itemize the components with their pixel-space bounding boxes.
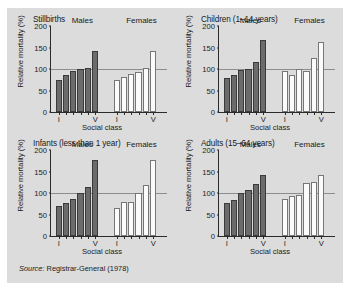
x-tick-mark — [234, 236, 235, 239]
y-axis-label: Relative mortality (%) — [184, 16, 193, 88]
x-axis-ticks: IVIV — [51, 236, 167, 245]
x-tick-mark — [146, 236, 147, 239]
bar — [70, 199, 76, 236]
bar-group-females — [282, 150, 326, 236]
chart-panel-adults: Adults (15–64 years) Relative mortality … — [175, 138, 343, 262]
x-tick-mark — [66, 112, 67, 115]
x-tick-mark — [249, 236, 250, 239]
bar — [121, 202, 127, 236]
bar — [77, 69, 83, 112]
y-tick-mark — [217, 150, 220, 151]
group-label-males: Males — [240, 16, 261, 25]
bar-group-males — [56, 26, 100, 112]
bar-group-males — [224, 150, 268, 236]
x-tick-mark — [299, 112, 300, 115]
bar — [114, 208, 120, 236]
bar — [135, 193, 141, 236]
bar-group-males — [56, 150, 100, 236]
x-tick-mark — [292, 236, 293, 239]
panel-grid: Stillbirths Relative mortality (%) 05010… — [7, 8, 343, 283]
bar — [282, 199, 288, 236]
x-tick-mark — [88, 112, 89, 115]
x-tick-mark — [299, 236, 300, 239]
bar — [114, 80, 120, 112]
group-label-females: Females — [126, 16, 157, 25]
bar — [77, 193, 83, 236]
x-tick-mark — [314, 236, 315, 239]
y-tick-mark — [217, 90, 220, 91]
x-tick-mark — [139, 236, 140, 239]
plot-area: 050100150200MalesFemalesIVIV — [218, 26, 335, 113]
bar — [63, 75, 69, 112]
plot-area: 050100150200MalesFemalesIVIV — [50, 26, 167, 113]
bar — [92, 160, 98, 236]
y-tick-mark — [217, 47, 220, 48]
x-tick-mark — [307, 236, 308, 239]
x-tick-mark — [234, 112, 235, 115]
x-tick-mark — [256, 112, 257, 115]
x-axis-ticks: IVIV — [219, 112, 335, 121]
chart-panel-infants: Infants (less than 1 year) Relative mort… — [7, 138, 175, 262]
bar — [253, 184, 259, 236]
bar — [245, 69, 251, 112]
bar — [260, 40, 266, 112]
source-prefix: Source: — [19, 264, 44, 273]
x-axis-ticks: IVIV — [219, 236, 335, 245]
y-axis-label: Relative mortality (%) — [184, 140, 193, 212]
x-tick-mark — [66, 236, 67, 239]
bar — [318, 175, 324, 236]
x-tick-mark — [73, 236, 74, 239]
bar — [253, 62, 259, 112]
bar — [311, 58, 317, 112]
x-tick-mark — [292, 112, 293, 115]
bar — [311, 182, 317, 236]
y-tick-mark — [49, 90, 52, 91]
x-tick-mark — [131, 236, 132, 239]
bar — [245, 190, 251, 236]
figure-panel: Stillbirths Relative mortality (%) 05010… — [7, 8, 343, 283]
plot-area: 050100150200MalesFemalesIVIV — [218, 150, 335, 237]
bar — [135, 72, 141, 112]
x-tick-mark — [256, 236, 257, 239]
bar — [150, 51, 156, 112]
bar — [289, 196, 295, 236]
source-caption: Source: Registrar-General (1978) — [19, 264, 129, 273]
bar-group-females — [282, 26, 326, 112]
bar — [231, 75, 237, 112]
group-label-males: Males — [72, 140, 93, 149]
group-label-females: Females — [294, 140, 325, 149]
bar-group-females — [114, 150, 158, 236]
x-tick-mark — [249, 112, 250, 115]
bar — [63, 203, 69, 236]
x-axis-label: Social class — [215, 123, 325, 132]
bar — [121, 77, 127, 112]
x-tick-mark — [307, 112, 308, 115]
source-text: Registrar-General (1978) — [47, 264, 129, 273]
bar — [303, 183, 309, 236]
x-axis-label: Social class — [215, 247, 325, 256]
bar — [289, 75, 295, 112]
x-tick-mark — [124, 236, 125, 239]
chart-panel-stillbirths: Stillbirths Relative mortality (%) 05010… — [7, 14, 175, 138]
x-tick-mark — [73, 112, 74, 115]
bar — [85, 187, 91, 236]
bar — [150, 160, 156, 236]
bar — [224, 78, 230, 112]
y-tick-mark — [49, 47, 52, 48]
y-axis-label: Relative mortality (%) — [16, 140, 25, 212]
x-tick-mark — [88, 236, 89, 239]
bar — [143, 185, 149, 236]
plot-area: 050100150200MalesFemalesIVIV — [50, 150, 167, 237]
x-axis-label: Social class — [47, 247, 157, 256]
x-axis-ticks: IVIV — [51, 112, 167, 121]
bar — [282, 71, 288, 112]
bar — [143, 68, 149, 112]
bar — [56, 80, 62, 112]
bar — [260, 175, 266, 236]
x-tick-mark — [139, 112, 140, 115]
y-tick-mark — [217, 214, 220, 215]
bar — [296, 69, 302, 112]
bar — [224, 203, 230, 236]
y-tick-mark — [49, 26, 52, 27]
y-tick-mark — [49, 214, 52, 215]
